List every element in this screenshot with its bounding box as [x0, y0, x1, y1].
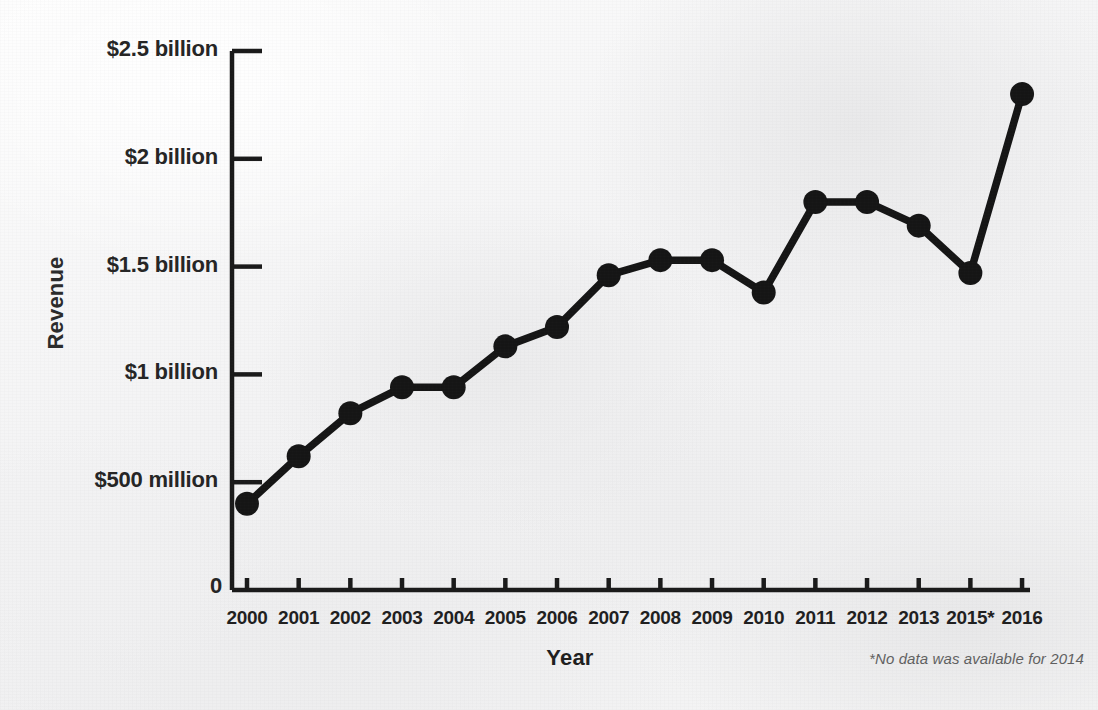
data-point-2012 [855, 190, 879, 214]
y-axis-ticks [232, 51, 262, 482]
data-point-2015* [958, 261, 982, 285]
data-point-2013 [907, 214, 931, 238]
data-point-2004 [442, 375, 466, 399]
data-point-2016 [1010, 82, 1034, 106]
data-point-2003 [390, 375, 414, 399]
data-point-2002 [338, 401, 362, 425]
revenue-series-line [247, 94, 1022, 504]
y-tick-label-5: $2.5 billion [107, 36, 218, 62]
data-point-2001 [287, 444, 311, 468]
chart-plot-area [0, 0, 1098, 710]
data-point-2007 [597, 263, 621, 287]
x-tick-label-2016: 2016 [977, 607, 1067, 629]
y-tick-label-1: $500 million [94, 467, 218, 493]
y-tick-label-2: $1 billion [125, 359, 218, 385]
data-point-2011 [803, 190, 827, 214]
x-axis-title-text: Year [546, 645, 593, 670]
data-point-2000 [235, 492, 259, 516]
revenue-series-markers [235, 82, 1034, 516]
revenue-line-chart-figure: 0$500 million$1 billion$1.5 billion$2 bi… [0, 0, 1098, 710]
data-point-2006 [545, 315, 569, 339]
data-point-2009 [700, 248, 724, 272]
chart-footnote: *No data was available for 2014 [869, 650, 1084, 667]
data-point-2005 [493, 334, 517, 358]
data-point-2010 [752, 280, 776, 304]
data-point-2008 [648, 248, 672, 272]
chart-axes [232, 51, 1030, 590]
y-tick-label-4: $2 billion [125, 144, 218, 170]
y-tick-label-0: 0 [210, 573, 222, 599]
y-tick-label-3: $1.5 billion [107, 252, 218, 278]
y-axis-title: Revenue [43, 223, 69, 383]
